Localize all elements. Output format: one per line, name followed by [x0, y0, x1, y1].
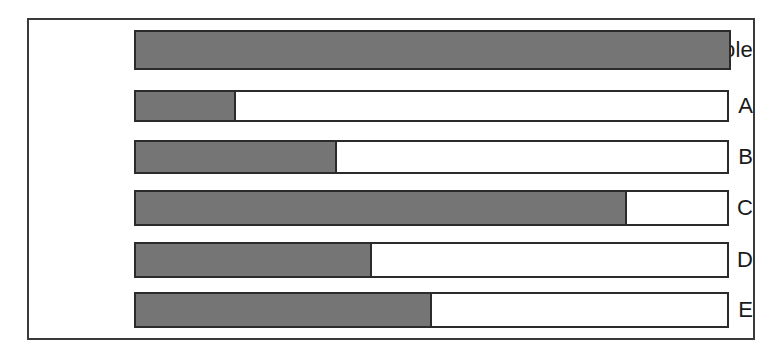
- bar-track-c: [134, 190, 729, 226]
- bar-fill-c: [136, 192, 627, 224]
- bar-fill-whole: [136, 32, 729, 68]
- bar-track-b: [134, 140, 729, 174]
- bar-track-a: [134, 90, 729, 122]
- fraction-bar-figure: whole A B C D: [0, 0, 770, 354]
- bar-track-whole: [134, 30, 731, 70]
- bar-fill-e: [136, 294, 432, 326]
- bar-track-e: [134, 292, 729, 328]
- bar-fill-b: [136, 142, 337, 172]
- figure-frame: whole A B C D: [27, 18, 755, 340]
- bar-fill-a: [136, 92, 236, 120]
- bar-fill-d: [136, 244, 372, 276]
- bar-track-d: [134, 242, 729, 278]
